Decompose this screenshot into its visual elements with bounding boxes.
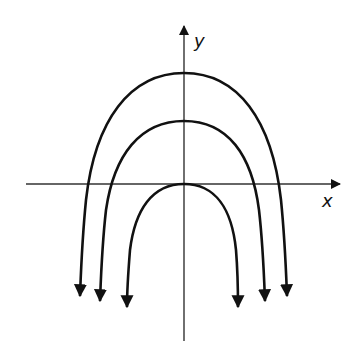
graph-figure: y x xyxy=(0,0,362,353)
y-axis-label: y xyxy=(194,30,205,51)
coordinate-plane xyxy=(0,0,362,353)
inner-parabola-left xyxy=(127,184,184,307)
middle-parabola-right xyxy=(184,121,265,301)
x-axis-label: x xyxy=(322,190,333,211)
inner-parabola-right xyxy=(184,184,238,307)
